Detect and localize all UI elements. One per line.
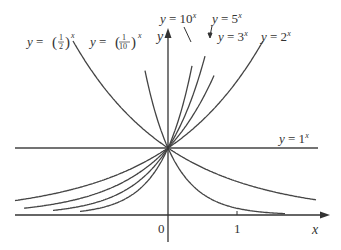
label-half-x: y = ( 1 2 ) x (25, 31, 75, 51)
y-axis-label: y (155, 29, 164, 44)
svg-text:y =: y = (25, 34, 43, 49)
label-10x: y = 10x (158, 11, 197, 26)
origin-label: 0 (158, 221, 165, 236)
svg-text:1: 1 (122, 33, 126, 42)
svg-text:y = 10x: y = 10x (158, 11, 197, 26)
curve-base-5 (53, 56, 205, 210)
label-5x: y = 5x (210, 11, 242, 26)
svg-text:x: x (70, 31, 75, 40)
curves-group (15, 41, 318, 214)
leader-lines (184, 26, 212, 42)
svg-text:y = 2x: y = 2x (259, 29, 291, 44)
svg-text:y =: y = (88, 34, 106, 49)
x-axis-label: x (311, 222, 319, 237)
label-1x: y = 1x (277, 131, 309, 146)
label-3x: y = 3x (216, 29, 248, 44)
svg-text:1: 1 (59, 33, 63, 42)
curve-base-0_1 (145, 71, 285, 214)
curve-base-0_5 (73, 41, 316, 200)
svg-text:): ) (65, 34, 70, 51)
svg-text:y = 5x: y = 5x (210, 11, 242, 26)
svg-text:y = 3x: y = 3x (216, 29, 248, 44)
label-tenth-x: y = ( 1 10 ) x (88, 31, 142, 51)
svg-text:y = 1x: y = 1x (277, 131, 309, 146)
svg-text:2: 2 (59, 42, 63, 51)
svg-text:(: ( (52, 34, 57, 51)
curve-base-2 (15, 41, 263, 201)
svg-text:10: 10 (119, 42, 127, 51)
x-axis-arrow-icon (320, 212, 330, 219)
svg-text:): ) (131, 34, 136, 51)
curve-base-10 (80, 66, 192, 212)
svg-text:x: x (137, 31, 142, 40)
label-2x: y = 2x (259, 29, 291, 44)
x-tick-label: 1 (234, 221, 241, 236)
y-axis-arrow-icon (165, 28, 172, 38)
exponential-graph: 0 1 x y y = 10x y = 5x y = 3x y = 2x y =… (0, 0, 341, 250)
